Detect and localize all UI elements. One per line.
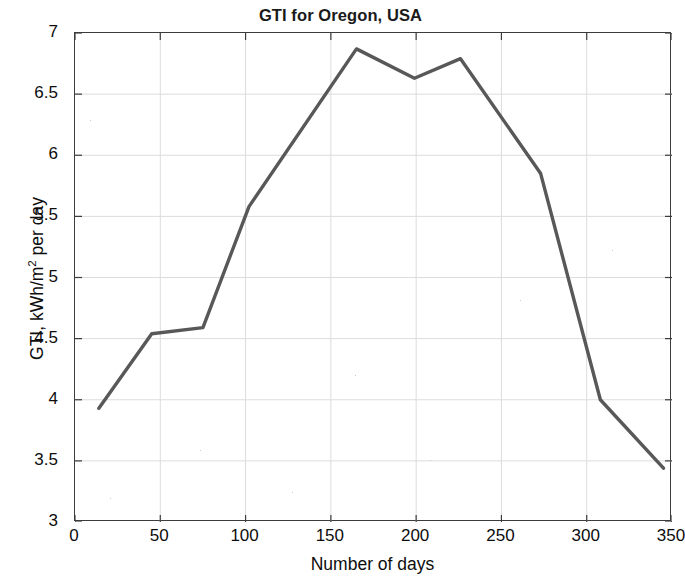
- x-tick-label: 50: [150, 526, 169, 546]
- data-line-gti: [99, 49, 664, 468]
- y-tick-label: 3.5: [34, 450, 58, 470]
- y-axis-label: GTI, kWh/m2 per day: [27, 129, 48, 429]
- y-tick-label: 6: [49, 144, 58, 164]
- x-axis-label: Number of days: [74, 554, 671, 575]
- y-axis-label-superscript: 2: [26, 260, 38, 266]
- x-tick-label: 150: [316, 526, 344, 546]
- y-axis-label-base: GTI, kWh/m: [27, 267, 47, 360]
- x-tick-label: 250: [486, 526, 514, 546]
- y-tick-label: 4: [49, 389, 58, 409]
- speckle: [90, 120, 91, 121]
- x-tick-label: 300: [572, 526, 600, 546]
- x-tick-label: 350: [657, 526, 685, 546]
- plot-svg: [75, 33, 672, 522]
- y-tick-label: 6.5: [34, 83, 58, 103]
- speckle: [612, 250, 613, 251]
- x-tick-label: 200: [401, 526, 429, 546]
- y-tick-label: 7: [49, 22, 58, 42]
- speckle: [110, 498, 111, 499]
- y-tick-label: 5: [49, 267, 58, 287]
- speckle: [355, 375, 356, 376]
- speckle: [200, 450, 201, 451]
- chart-title: GTI for Oregon, USA: [0, 6, 681, 25]
- speckle: [520, 300, 521, 301]
- y-tick-label: 3: [49, 511, 58, 531]
- speckle: [292, 492, 293, 493]
- plot-area: [74, 32, 671, 521]
- y-axis-label-tail: per day: [27, 197, 47, 260]
- x-tick-label: 0: [69, 526, 78, 546]
- gridlines: [75, 33, 672, 522]
- x-tick-label: 100: [230, 526, 258, 546]
- speckle: [430, 460, 431, 461]
